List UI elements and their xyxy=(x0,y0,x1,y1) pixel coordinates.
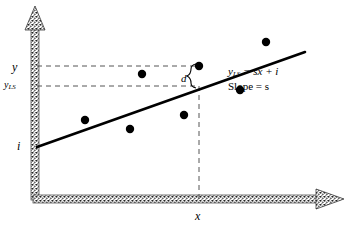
x-axis-shaft xyxy=(33,195,319,203)
guide-lines xyxy=(37,66,199,199)
y-observed-label: y xyxy=(12,61,17,73)
y-axis-arrowhead-icon xyxy=(25,6,45,30)
y-ls-label: yLS xyxy=(4,80,16,91)
data-point xyxy=(138,70,146,78)
x-axis-arrowhead-icon xyxy=(316,189,344,209)
equation-annotation: yLS = sx + i Slope = s xyxy=(228,64,278,94)
equation-y-rest: = sx + i xyxy=(240,65,278,77)
data-point xyxy=(262,38,270,46)
x-axis xyxy=(33,189,344,209)
intercept-label: i xyxy=(17,140,20,152)
data-point-highlighted xyxy=(195,62,203,70)
equation-line-2: Slope = s xyxy=(228,79,278,94)
y-axis-shaft xyxy=(31,24,39,200)
y-ls-label-subscript: LS xyxy=(8,83,15,91)
data-point xyxy=(126,125,134,133)
y-axis xyxy=(25,6,45,200)
regression-diagram: y yLS i x d yLS = sx + i Slope = s xyxy=(0,0,349,229)
diagram-canvas xyxy=(0,0,349,229)
residual-brace-icon xyxy=(187,64,196,88)
x-value-label: x xyxy=(195,210,200,222)
data-point xyxy=(180,111,188,119)
residual-label: d xyxy=(181,73,187,84)
equation-line-1: yLS = sx + i xyxy=(228,64,278,79)
data-point xyxy=(81,116,89,124)
